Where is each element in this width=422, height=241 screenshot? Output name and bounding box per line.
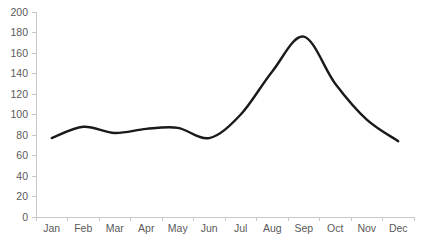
x-tick-label: Nov <box>357 222 376 234</box>
x-tick-label: May <box>168 222 189 234</box>
x-axis-tick-labels: JanFebMarAprMayJunJulAugSepOctNovDec <box>43 222 407 234</box>
x-tick-label: Feb <box>74 222 92 234</box>
y-tick-label: 140 <box>10 67 28 79</box>
y-tick-label: 160 <box>10 47 28 59</box>
y-axis-group: 020406080100120140160180200 <box>10 6 36 223</box>
series-line-monthly <box>52 36 399 141</box>
y-tick-label: 40 <box>16 170 28 182</box>
y-axis-tick-labels: 020406080100120140160180200 <box>10 6 28 223</box>
y-tick-label: 100 <box>10 108 28 120</box>
line-chart: 020406080100120140160180200 JanFebMarApr… <box>0 0 422 241</box>
x-tick-label: Apr <box>138 222 155 234</box>
x-axis-ticks <box>36 217 414 221</box>
y-tick-label: 60 <box>16 149 28 161</box>
data-series-group <box>52 36 399 141</box>
x-tick-label: Jul <box>234 222 247 234</box>
y-tick-label: 0 <box>22 211 28 223</box>
x-tick-label: Sep <box>294 222 313 234</box>
y-tick-label: 200 <box>10 6 28 18</box>
x-axis-group: JanFebMarAprMayJunJulAugSepOctNovDec <box>36 217 414 234</box>
x-tick-label: Mar <box>106 222 125 234</box>
x-tick-label: Aug <box>263 222 282 234</box>
y-axis-ticks <box>32 12 36 217</box>
y-tick-label: 80 <box>16 129 28 141</box>
chart-plot-area: 020406080100120140160180200 JanFebMarApr… <box>0 0 422 241</box>
y-tick-label: 120 <box>10 88 28 100</box>
x-tick-label: Oct <box>327 222 343 234</box>
x-tick-label: Jan <box>43 222 60 234</box>
y-tick-label: 20 <box>16 190 28 202</box>
x-tick-label: Dec <box>389 222 408 234</box>
y-tick-label: 180 <box>10 26 28 38</box>
x-tick-label: Jun <box>201 222 218 234</box>
